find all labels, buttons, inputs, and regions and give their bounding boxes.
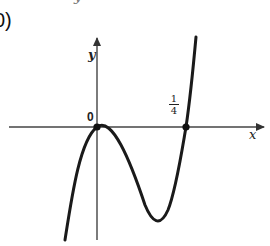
function-graph: 0) y y 0 x 1 4 — [0, 0, 270, 246]
y-axis-label: y — [88, 48, 96, 61]
plot-area — [0, 0, 270, 246]
root-quarter-point — [182, 123, 189, 130]
cubic-curve — [65, 37, 196, 240]
fraction-denominator: 4 — [168, 105, 180, 116]
x-axis-label: x — [249, 128, 256, 141]
origin-label: 0 — [87, 111, 94, 123]
quarter-tick-label: 1 4 — [168, 93, 180, 116]
fraction-numerator: 1 — [168, 93, 180, 104]
origin-point — [93, 123, 100, 130]
